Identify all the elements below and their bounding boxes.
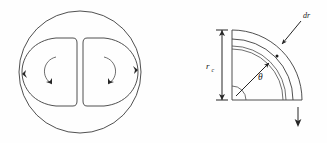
figure-container: r c θ dr bbox=[0, 0, 327, 143]
figure-canvas: r c θ dr bbox=[0, 0, 327, 143]
right-vortex-loop bbox=[83, 38, 138, 106]
left-vortex-loop bbox=[22, 38, 77, 106]
dr-label: dr bbox=[303, 11, 311, 20]
right-inner-swirl-arc bbox=[104, 57, 116, 84]
outer-circle bbox=[19, 11, 141, 133]
radius-subscript-label: c bbox=[212, 67, 215, 73]
left-vortex-panel bbox=[19, 11, 141, 133]
left-inner-swirl-arc bbox=[44, 57, 56, 84]
theta-label: θ bbox=[258, 72, 263, 82]
element-point-dot bbox=[276, 55, 279, 58]
left-inner-swirl-arrow bbox=[46, 78, 52, 84]
radial-arrow bbox=[236, 63, 269, 96]
radius-label: r bbox=[206, 61, 210, 71]
right-inner-swirl-arrow bbox=[108, 78, 114, 84]
dr-leader-line bbox=[282, 21, 301, 44]
right-sector-panel: r c θ dr bbox=[206, 11, 311, 127]
